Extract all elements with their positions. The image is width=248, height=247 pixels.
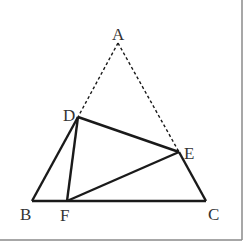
label-B: B <box>20 205 31 224</box>
label-D: D <box>63 106 75 125</box>
label-C: C <box>208 205 219 224</box>
segment-AD <box>78 43 118 117</box>
segment-EF <box>67 152 179 201</box>
segment-DE <box>78 117 179 152</box>
segment-BD <box>32 117 78 201</box>
label-F: F <box>60 206 69 225</box>
label-A: A <box>112 25 125 44</box>
segment-DF <box>67 117 78 201</box>
segment-AE <box>118 43 179 152</box>
geometry-diagram: A D E B F C <box>0 0 248 247</box>
label-E: E <box>184 144 194 163</box>
